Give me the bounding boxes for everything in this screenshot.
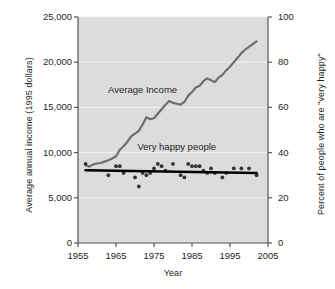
data-point	[209, 167, 213, 171]
data-point	[183, 176, 187, 180]
data-point	[118, 164, 122, 168]
data-point	[186, 162, 190, 166]
chart-annotation: Very happy people	[137, 141, 216, 152]
data-point	[247, 167, 251, 171]
data-point	[171, 162, 175, 166]
plot-background	[78, 17, 268, 243]
data-point	[145, 173, 149, 177]
data-point	[190, 164, 194, 168]
data-point	[156, 162, 160, 166]
chart-annotation: Average Income	[108, 84, 177, 95]
data-point	[160, 164, 164, 168]
data-point	[194, 164, 198, 168]
plot-canvas: Average IncomeVery happy people	[0, 0, 335, 289]
data-point	[221, 176, 225, 180]
data-point	[232, 167, 236, 171]
chart-figure: Average annual income (1995 dollars) Per…	[0, 0, 335, 289]
data-point	[84, 162, 88, 166]
data-point	[152, 167, 156, 171]
data-point	[137, 185, 141, 189]
data-point	[240, 167, 244, 171]
data-point	[107, 173, 111, 177]
data-point	[179, 173, 183, 177]
data-point	[133, 176, 137, 180]
data-point	[114, 164, 118, 168]
data-point	[198, 164, 202, 168]
